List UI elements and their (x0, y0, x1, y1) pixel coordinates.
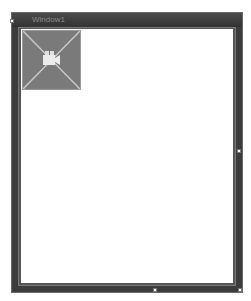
content-area[interactable] (21, 29, 233, 283)
resize-handle-bottom-right[interactable] (238, 288, 242, 292)
video-placeholder[interactable] (22, 30, 81, 90)
resize-handle-top-left[interactable] (10, 19, 14, 23)
title-bar[interactable]: Window1 (12, 13, 242, 27)
window-frame (18, 27, 236, 286)
window-title: Window1 (32, 14, 65, 26)
window[interactable]: Window1 (11, 12, 243, 293)
resize-handle-right[interactable] (237, 149, 241, 153)
video-camera-icon (42, 51, 62, 67)
resize-handle-bottom[interactable] (153, 288, 157, 292)
